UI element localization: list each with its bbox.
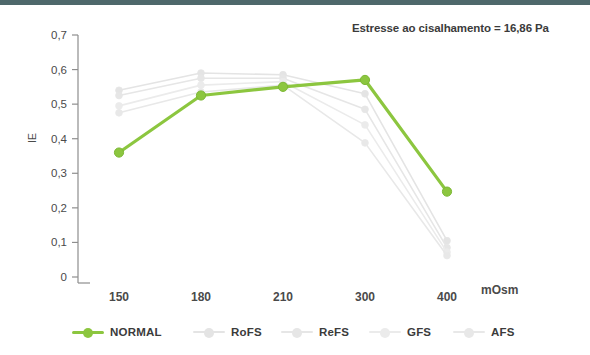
data-point bbox=[116, 109, 123, 116]
legend-label: GFS bbox=[407, 326, 431, 338]
data-point bbox=[362, 106, 369, 113]
y-tick-label: 0,1 bbox=[51, 236, 67, 248]
x-tick-label: 210 bbox=[273, 290, 293, 304]
data-point bbox=[362, 90, 369, 97]
chart-figure: Estresse ao cisalhamento = 16,86 Pa IE m… bbox=[0, 5, 590, 355]
x-tick-label: 400 bbox=[437, 290, 457, 304]
y-tick-label: 0,3 bbox=[51, 167, 67, 179]
legend-dot bbox=[464, 328, 474, 338]
y-tick-label: 0 bbox=[61, 271, 67, 283]
data-point bbox=[278, 82, 287, 91]
y-tick-label: 0,4 bbox=[51, 133, 68, 145]
data-point bbox=[362, 139, 369, 146]
legend-marker-icon bbox=[281, 325, 313, 339]
series-gfs bbox=[116, 78, 451, 255]
legend-label: NORMAL bbox=[110, 326, 162, 338]
y-tick-label: 0,6 bbox=[51, 64, 67, 76]
x-axis: 150180210300400 bbox=[78, 283, 457, 304]
legend-label: RoFS bbox=[231, 326, 262, 338]
x-tick-label: 300 bbox=[355, 290, 375, 304]
plot-area: 00,10,20,30,40,50,60,7 150180210300400 bbox=[0, 5, 590, 355]
x-tick-label: 150 bbox=[109, 290, 129, 304]
data-point bbox=[360, 75, 369, 84]
data-point bbox=[362, 121, 369, 128]
legend-dot bbox=[204, 328, 214, 338]
legend-item-afs[interactable]: AFS bbox=[453, 321, 515, 343]
legend-dot bbox=[292, 328, 302, 338]
data-point bbox=[116, 102, 123, 109]
data-series-group bbox=[114, 70, 451, 259]
legend-marker-icon bbox=[453, 325, 485, 339]
series-afs bbox=[116, 82, 451, 259]
data-point bbox=[196, 91, 205, 100]
y-tick-label: 0,7 bbox=[51, 29, 67, 41]
series-rofs bbox=[116, 70, 451, 244]
legend-dot bbox=[83, 328, 93, 338]
chart-legend: NORMALRoFSReFSGFSAFS bbox=[0, 321, 590, 351]
y-axis: 00,10,20,30,40,50,60,7 bbox=[51, 29, 78, 283]
y-tick-label: 0,5 bbox=[51, 98, 67, 110]
legend-label: AFS bbox=[491, 326, 515, 338]
legend-dot bbox=[380, 328, 390, 338]
legend-marker-icon bbox=[72, 325, 104, 339]
data-point bbox=[116, 92, 123, 99]
legend-item-refs[interactable]: ReFS bbox=[281, 321, 349, 343]
legend-item-gfs[interactable]: GFS bbox=[369, 321, 431, 343]
data-point bbox=[198, 75, 205, 82]
legend-item-rofs[interactable]: RoFS bbox=[193, 321, 262, 343]
legend-label: ReFS bbox=[319, 326, 349, 338]
data-point bbox=[198, 82, 205, 89]
y-tick-label: 0,2 bbox=[51, 202, 67, 214]
data-point bbox=[444, 252, 451, 259]
x-tick-label: 180 bbox=[191, 290, 211, 304]
data-point bbox=[442, 187, 451, 196]
legend-marker-icon bbox=[193, 325, 225, 339]
legend-item-normal[interactable]: NORMAL bbox=[72, 321, 162, 343]
data-point bbox=[114, 148, 123, 157]
legend-marker-icon bbox=[369, 325, 401, 339]
